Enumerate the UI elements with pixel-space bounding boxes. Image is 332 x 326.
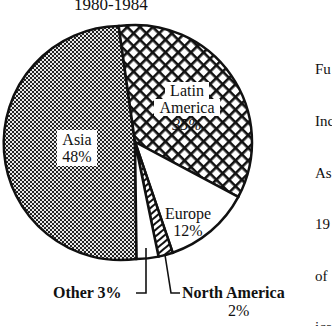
- side-line: of: [315, 268, 332, 285]
- side-line: Inc: [315, 113, 332, 130]
- label-north-america-pct: 2%: [228, 302, 249, 320]
- label-latin-name-2: America: [154, 99, 220, 116]
- label-latin-pct: 35%: [154, 116, 220, 133]
- side-line: As: [315, 165, 332, 182]
- leader-north-america: [165, 255, 180, 293]
- label-asia-pct: 48%: [57, 148, 97, 165]
- label-europe-pct: 12%: [162, 222, 214, 239]
- side-line: ica: [315, 319, 332, 326]
- label-other: Other 3%: [53, 284, 122, 302]
- pie-chart: [0, 0, 332, 326]
- label-asia: Asia 48%: [57, 130, 97, 166]
- label-europe-name: Europe: [162, 205, 214, 222]
- side-line: 19: [315, 216, 332, 233]
- side-line: Fu: [315, 61, 332, 78]
- label-latin-america: Latin America 35%: [154, 82, 220, 133]
- label-europe: Europe 12%: [162, 205, 214, 239]
- label-latin-name-1: Latin: [165, 82, 209, 99]
- label-asia-name: Asia: [57, 131, 97, 148]
- side-text: Fu Inc As 19 of ica its ab gro As 19 (1: [315, 27, 332, 326]
- label-north-america: North America: [182, 284, 285, 302]
